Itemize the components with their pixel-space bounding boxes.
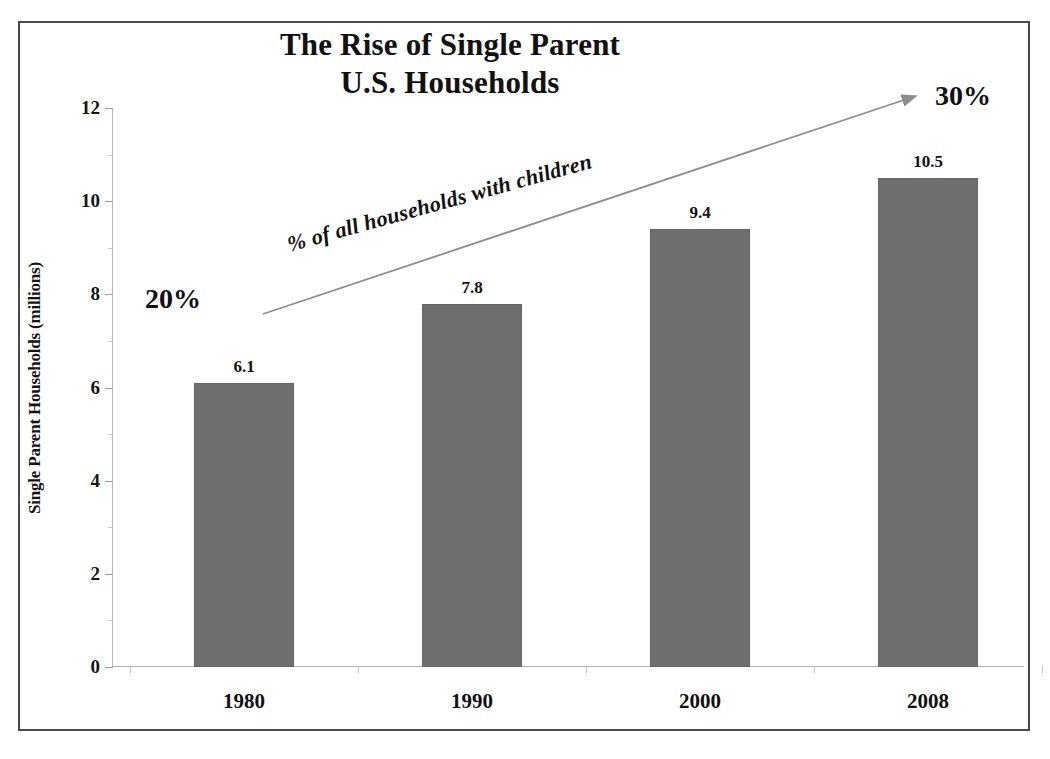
y-axis-tick-label: 6: [91, 377, 101, 399]
y-axis-minor-tick: [108, 434, 113, 435]
bar: [194, 383, 294, 667]
trend-start-percent-label: 20%: [145, 283, 201, 315]
x-axis-category-label: 1980: [184, 689, 304, 714]
chart-title-line-2: U.S. Households: [140, 64, 760, 102]
bar: [650, 229, 750, 667]
y-axis-title-label: Single Parent Households (millions): [25, 262, 45, 514]
y-axis-tick-label: 2: [91, 563, 101, 585]
y-axis-tick: [105, 108, 113, 109]
y-axis-minor-tick: [108, 341, 113, 342]
x-axis-category-label: 2008: [868, 689, 988, 714]
bar-value-label: 10.5: [878, 152, 978, 172]
y-axis-tick: [105, 667, 113, 668]
y-axis-minor-tick: [108, 248, 113, 249]
y-axis-tick: [105, 481, 113, 482]
y-axis-tick: [105, 294, 113, 295]
bar-value-label: 6.1: [194, 357, 294, 377]
x-axis-tick: [814, 666, 815, 673]
y-axis-minor-tick: [108, 620, 113, 621]
y-axis-tick: [105, 388, 113, 389]
y-axis-title: Single Parent Households (millions): [22, 108, 48, 667]
plot-area: 024681012 6.17.89.410.5: [112, 108, 1024, 667]
y-axis-tick-label: 10: [81, 190, 100, 212]
bar-value-label: 7.8: [422, 278, 522, 298]
y-axis-tick-label: 12: [81, 97, 100, 119]
x-axis-tick: [1042, 666, 1043, 673]
y-axis-minor-tick: [108, 155, 113, 156]
x-axis-tick: [586, 666, 587, 673]
bar-value-label: 9.4: [650, 203, 750, 223]
chart-figure: The Rise of Single Parent U.S. Household…: [0, 0, 1050, 759]
y-axis-minor-tick: [108, 527, 113, 528]
x-axis-tick: [130, 666, 131, 673]
y-axis-tick: [105, 201, 113, 202]
x-axis-category-label: 1990: [412, 689, 532, 714]
trend-end-percent-label: 30%: [935, 80, 991, 112]
x-axis-category-label: 2000: [640, 689, 760, 714]
chart-title: The Rise of Single Parent U.S. Household…: [140, 26, 760, 103]
y-axis-tick-label: 4: [91, 470, 101, 492]
y-axis-tick-label: 0: [91, 656, 101, 678]
chart-title-line-1: The Rise of Single Parent: [280, 27, 620, 62]
x-axis-tick: [358, 666, 359, 673]
bar: [422, 304, 522, 667]
y-axis-tick: [105, 574, 113, 575]
bar: [878, 178, 978, 667]
y-axis-tick-label: 8: [91, 283, 101, 305]
